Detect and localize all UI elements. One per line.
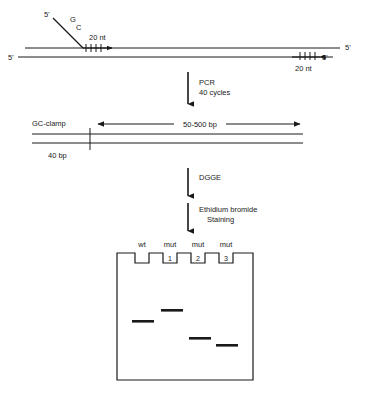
figure-canvas: 5' 5' 5' G C 20 nt xyxy=(0,0,368,403)
gel-outline xyxy=(117,253,253,380)
forward-primer-five-prime-label: 5' xyxy=(44,10,50,19)
gel-band-mut1 xyxy=(161,309,183,312)
dgge-step-group: DGGE xyxy=(188,168,221,196)
gel-lane-number-3: 3 xyxy=(224,255,228,262)
gel-lane-label-wt: wt xyxy=(137,240,146,249)
staining-step-group: Ethidium bromide Staining xyxy=(188,203,257,231)
pcr-step-label-line1: PCR xyxy=(199,78,215,87)
gel-band-mut2 xyxy=(189,337,211,340)
pcr-step-group: PCR 40 cycles xyxy=(188,72,231,104)
reverse-primer-group: 5' 20 nt xyxy=(292,52,328,73)
gel-lane-number-1: 1 xyxy=(168,255,172,262)
pcr-step-label-line2: 40 cycles xyxy=(199,88,231,97)
gel-lane-label-mut3: mut xyxy=(220,240,233,249)
gel-group: wt mut mut mut 1 2 3 xyxy=(117,240,253,380)
gel-lane-label-mut2: mut xyxy=(192,240,205,249)
dgge-workflow-figure: 5' 5' 5' G C 20 nt xyxy=(0,0,368,403)
product-size-label: 50-500 bp xyxy=(183,120,217,129)
reverse-primer-hatch-marks xyxy=(300,52,315,60)
gel-lane-number-2: 2 xyxy=(196,255,200,262)
gel-band-wt xyxy=(132,320,154,323)
gel-lane-label-mut1: mut xyxy=(164,240,177,249)
reverse-primer-length-label: 20 nt xyxy=(295,64,313,73)
gc-clamp-size-label: 40 bp xyxy=(48,151,67,160)
top-strand-five-prime-label: 5' xyxy=(345,43,351,52)
staining-step-label-line1: Ethidium bromide xyxy=(199,205,257,214)
gel-band-mut3 xyxy=(216,344,238,347)
dgge-step-label: DGGE xyxy=(199,173,221,182)
bottom-strand-five-prime-label: 5' xyxy=(8,53,14,62)
gc-clamp-label: GC-clamp xyxy=(32,119,66,128)
staining-step-label-line2: Staining xyxy=(207,215,234,224)
pcr-product-group: GC-clamp 50-500 bp 40 bp xyxy=(32,118,303,160)
forward-primer-group: 5' G C 20 nt xyxy=(44,10,112,52)
gc-clamp-base-c-label: C xyxy=(76,23,82,32)
forward-primer-length-label: 20 nt xyxy=(89,33,107,42)
reverse-primer-five-prime-label: 5' xyxy=(322,53,328,62)
